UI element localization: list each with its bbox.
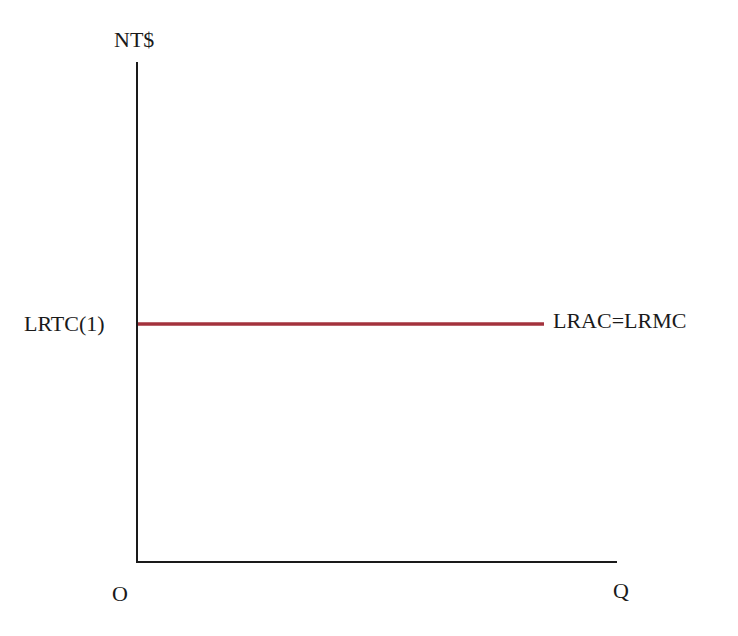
curve-label: LRAC=LRMC [553,310,686,332]
x-axis-label: Q [613,580,629,602]
y-tick-label: LRTC(1) [24,313,105,335]
y-axis-label: NT$ [114,29,154,51]
origin-label: O [112,583,128,605]
